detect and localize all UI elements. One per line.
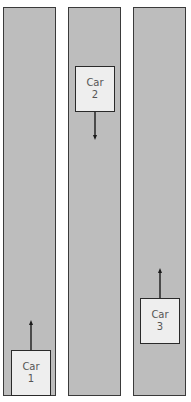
car-2-label: Car xyxy=(86,77,103,89)
car-3-number: 3 xyxy=(157,321,163,333)
car-1-label: Car xyxy=(22,361,39,373)
lane-1 xyxy=(3,7,56,396)
car-2: Car 2 xyxy=(75,66,115,112)
car-1-number: 1 xyxy=(28,373,34,385)
car-2-number: 2 xyxy=(92,89,98,101)
car-3-label: Car xyxy=(151,309,168,321)
car-1: Car 1 xyxy=(11,350,51,396)
car-3: Car 3 xyxy=(140,298,180,344)
